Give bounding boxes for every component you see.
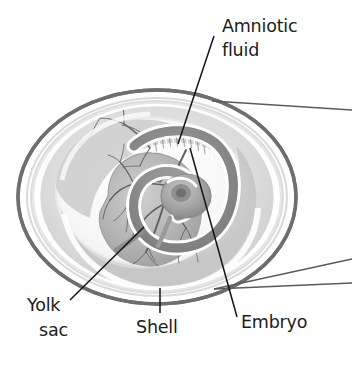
label-embryo: Embryo: [241, 312, 307, 332]
egg-body: [18, 89, 296, 304]
label-amniotic-fluid: Amniotic fluid: [222, 16, 297, 60]
label-yolk-sac-line1: Yolk: [26, 295, 61, 315]
label-amniotic-fluid-line1: Amniotic: [222, 16, 297, 36]
embryo-eye-inner: [176, 189, 186, 198]
egg-cross-section-figure: Amniotic fluid Yolk sac Shell Embryo: [0, 0, 352, 370]
label-embryo-line1: Embryo: [241, 312, 307, 332]
label-yolk-sac: Yolk sac: [26, 295, 68, 340]
label-yolk-sac-line2: sac: [39, 320, 68, 340]
label-shell: Shell: [136, 317, 178, 337]
label-shell-line1: Shell: [136, 317, 178, 337]
label-amniotic-fluid-line2: fluid: [222, 40, 259, 60]
